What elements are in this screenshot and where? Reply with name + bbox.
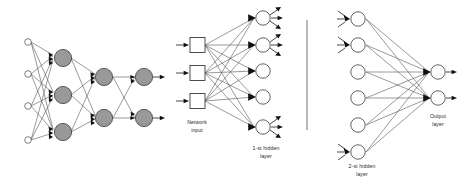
right-output-arrows	[446, 70, 457, 100]
first-hidden-node-3	[256, 64, 270, 78]
second-hidden-node-3	[351, 65, 365, 79]
left-input-node-3	[25, 103, 32, 110]
left-hidden1-node-2	[54, 86, 71, 103]
left-input-node-2	[25, 71, 32, 78]
network-input-box-3	[190, 94, 205, 109]
output-layer-label-line2: layer	[432, 121, 444, 127]
right-panel-hidden2-output: Output layer 2-st hidden layer	[337, 11, 457, 177]
network-input-box-1	[190, 38, 205, 53]
left-edges-hidden2-to-output	[113, 77, 135, 118]
left-output-nodes	[135, 68, 152, 126]
second-hidden-node-5	[351, 118, 365, 132]
right-edges-hidden2-to-output	[366, 19, 429, 152]
second-hidden-node-1	[351, 12, 365, 26]
left-input-node-1	[25, 39, 32, 46]
left-hidden2-nodes	[95, 68, 112, 126]
middle-hidden1-output-fans	[270, 7, 283, 138]
first-hidden-layer-label-line2: layer	[260, 153, 272, 159]
network-input-label-line2: input	[191, 127, 203, 133]
middle-hidden1-nodes	[256, 11, 270, 134]
left-hidden1-nodes	[54, 49, 71, 140]
diagram-canvas: Network input 1-st hidden layer	[0, 0, 472, 182]
right-hidden2-nodes	[351, 12, 365, 159]
neural-network-diagram: Network input 1-st hidden layer	[0, 0, 472, 182]
second-hidden-node-6	[351, 145, 365, 159]
middle-edges-input-to-hidden1	[205, 18, 254, 127]
second-hidden-layer-label-line1: 2-st hidden	[349, 163, 376, 169]
right-arrowheads-output	[423, 68, 431, 102]
first-hidden-node-4	[256, 90, 270, 104]
second-hidden-node-4	[351, 91, 365, 105]
second-hidden-node-2	[351, 38, 365, 52]
middle-network-input-arrows	[176, 43, 189, 103]
first-hidden-node-2	[256, 38, 270, 52]
right-output-nodes	[431, 65, 445, 105]
left-input-node-4	[25, 137, 32, 144]
first-hidden-layer-label-line1: 1-st hidden	[253, 145, 280, 151]
left-input-nodes	[25, 39, 32, 144]
middle-panel-input-hidden1: Network input 1-st hidden layer	[176, 7, 283, 159]
middle-arrowheads-hidden1	[248, 14, 256, 131]
left-hidden1-node-3	[54, 123, 71, 140]
left-output-node-2	[135, 109, 152, 126]
left-panel-full-network	[25, 39, 165, 144]
middle-input-boxes	[190, 38, 205, 109]
output-node-2	[431, 91, 445, 105]
left-output-node-1	[135, 68, 152, 85]
left-hidden2-node-2	[95, 109, 112, 126]
second-hidden-layer-label-line2: layer	[356, 171, 368, 177]
first-hidden-node-5	[256, 120, 270, 134]
network-input-label-line1: Network	[187, 119, 207, 125]
output-node-1	[431, 65, 445, 79]
left-hidden2-node-1	[95, 68, 112, 85]
network-input-box-2	[190, 66, 205, 81]
first-hidden-node-1	[256, 11, 270, 25]
left-arrowheads-output	[130, 75, 135, 120]
right-hidden2-input-fans	[337, 11, 350, 160]
left-hidden1-node-1	[54, 49, 71, 66]
output-layer-label-line1: Output	[430, 113, 447, 119]
left-output-arrows	[153, 75, 165, 120]
